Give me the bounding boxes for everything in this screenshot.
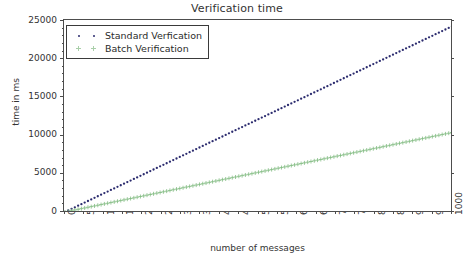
y-tick-label: 5000 [9,168,57,177]
chart-legend: Standard Verfication Batch Verification [66,25,209,59]
y-tick-label: 25000 [9,16,57,25]
legend-label-batch: Batch Verification [101,43,189,54]
series-batch [64,131,452,212]
y-tick-label: 10000 [9,130,57,139]
legend-marker-batch-icon [71,46,101,51]
y-tick-label: 15000 [9,92,57,101]
legend-item-standard: Standard Verfication [71,29,202,42]
legend-marker-standard-icon [71,35,101,37]
y-tick-label: 0 [9,207,57,216]
chart-figure: Verification time time in ms 05000100001… [0,0,474,262]
x-axis-label: number of messages [63,243,452,253]
legend-item-batch: Batch Verification [71,42,202,55]
chart-title: Verification time [0,2,474,15]
y-tick-label: 20000 [9,54,57,63]
x-tick-label: 1000 [455,192,464,215]
legend-label-standard: Standard Verfication [101,30,202,41]
